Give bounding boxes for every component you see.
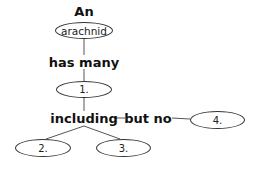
blank-node-1: 1.: [56, 81, 112, 98]
blank-node-3-label: 3.: [119, 143, 129, 154]
blank-node-2: 2.: [15, 139, 71, 157]
title-word: An: [74, 5, 93, 18]
link-label-but-no: but no: [124, 112, 172, 125]
root-node-arachnid: arachnid: [55, 22, 113, 39]
root-node-label: arachnid: [61, 25, 107, 37]
blank-node-3: 3.: [96, 139, 151, 157]
blank-node-1-label: 1.: [79, 84, 89, 95]
blank-node-2-label: 2.: [38, 143, 48, 154]
link-label-including: including: [50, 112, 117, 125]
link-label-has-many: has many: [49, 56, 119, 69]
blank-node-4: 4.: [190, 111, 245, 129]
blank-node-4-label: 4.: [213, 115, 223, 126]
